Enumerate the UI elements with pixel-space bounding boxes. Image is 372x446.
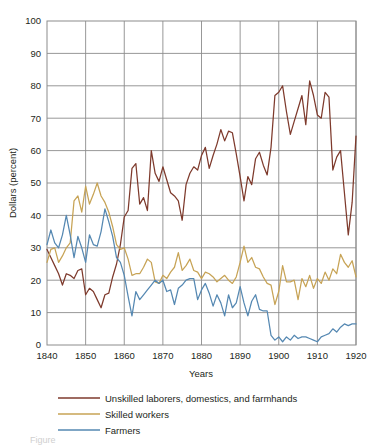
figure-caption: Figure xyxy=(30,435,56,445)
line-chart: 0102030405060708090100 18401850186018701… xyxy=(0,0,372,446)
y-tick-label: 50 xyxy=(30,177,41,188)
x-tick-label: 1920 xyxy=(345,350,366,361)
legend-label-3: Farmers xyxy=(105,425,141,436)
chart-legend: Unskilled laborers, domestics, and farmh… xyxy=(58,393,297,436)
legend-label-2: Skilled workers xyxy=(105,409,169,420)
x-tick-label: 1880 xyxy=(191,350,212,361)
y-tick-label: 20 xyxy=(30,275,41,286)
y-tick-label: 60 xyxy=(30,145,41,156)
x-tick-label: 1900 xyxy=(268,350,289,361)
x-tick-label: 1890 xyxy=(230,350,251,361)
figure-container: 0102030405060708090100 18401850186018701… xyxy=(0,0,372,446)
x-tick-label: 1840 xyxy=(36,350,57,361)
y-tick-label: 90 xyxy=(30,48,41,59)
y-tick-label: 100 xyxy=(25,15,41,26)
x-tick-label: 1910 xyxy=(307,350,328,361)
x-axis-title: Years xyxy=(189,368,213,379)
x-axis-tick-labels: 184018501860187018801890190019101920 xyxy=(36,350,366,361)
y-tick-label: 70 xyxy=(30,113,41,124)
legend-label-1: Unskilled laborers, domestics, and farmh… xyxy=(105,393,297,404)
x-tick-label: 1870 xyxy=(152,350,173,361)
y-tick-label: 30 xyxy=(30,242,41,253)
y-tick-label: 40 xyxy=(30,210,41,221)
y-axis-tick-labels: 0102030405060708090100 xyxy=(25,15,41,350)
y-tick-label: 10 xyxy=(30,307,41,318)
y-tick-label: 80 xyxy=(30,80,41,91)
y-tick-label: 0 xyxy=(36,339,41,350)
x-tick-label: 1860 xyxy=(114,350,135,361)
x-tick-label: 1850 xyxy=(75,350,96,361)
y-axis-title: Dollars (percent) xyxy=(7,148,18,218)
